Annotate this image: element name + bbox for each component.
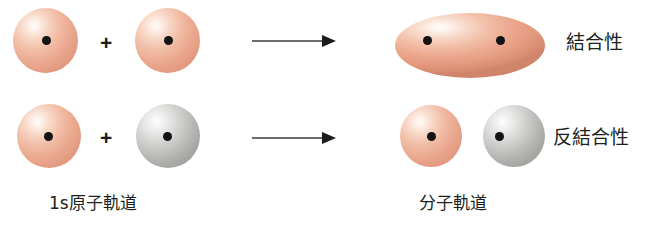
nucleus-dot: [164, 36, 173, 45]
caption-atomic-orbital: 1s原子軌道: [49, 195, 137, 212]
nucleus-dot: [44, 132, 53, 141]
nucleus-dot: [163, 132, 172, 141]
plus-operator-row2: +: [100, 127, 112, 148]
plus-operator-row1: +: [100, 32, 112, 53]
nucleus-dot: [423, 36, 432, 45]
label-antibonding: 反結合性: [553, 128, 629, 147]
label-bonding: 結合性: [566, 33, 623, 52]
arrow-right-icon-row2: [250, 127, 340, 149]
molecular-orbital-bonding: [395, 13, 545, 78]
nucleus-dot: [427, 132, 436, 141]
molecular-orbital-antibonding-lobe-gray: [483, 105, 545, 167]
nucleus-dot: [42, 36, 51, 45]
arrow-right-icon-row1: [250, 30, 340, 52]
nucleus-dot: [495, 132, 504, 141]
nucleus-dot: [496, 36, 505, 45]
orbital-diagram-figure: + 結合性 + 反結合性 1s原子軌道 分子軌道: [0, 0, 653, 241]
caption-molecular-orbital: 分子軌道: [419, 195, 487, 212]
